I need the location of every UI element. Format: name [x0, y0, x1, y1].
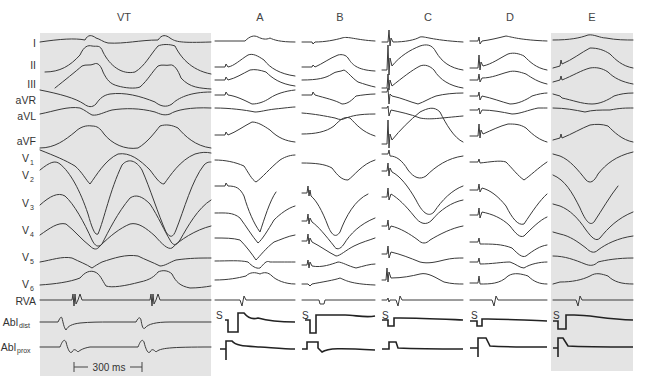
column-title-e: E: [588, 11, 595, 23]
lead-label-avr: aVR: [16, 94, 37, 106]
ecg-trace: [470, 108, 547, 114]
column-title-vt: VT: [117, 11, 131, 23]
ecg-trace: [215, 296, 295, 306]
lead-label-v4: V: [22, 224, 29, 236]
lead-label-v2-sub: 2: [30, 176, 34, 183]
ecg-trace: [470, 296, 547, 306]
c-stim-abl-prox: [382, 342, 463, 349]
a-traces: S: [215, 36, 295, 360]
ecg-trace: [382, 106, 463, 119]
ecg-trace: [215, 70, 295, 86]
lead-label-rva: RVA: [15, 295, 36, 307]
scale-bar-label: 300 ms: [93, 362, 126, 373]
a-stim-abl-prox: [220, 341, 295, 360]
ecg-trace: [382, 268, 463, 284]
column-title-c: C: [424, 11, 432, 23]
lead-label-v6: V: [22, 278, 29, 290]
lead-label-v2: V: [22, 169, 29, 181]
ecg-trace: [215, 107, 295, 112]
ecg-trace: [382, 30, 463, 46]
lead-label-v5-sub: 5: [30, 258, 34, 265]
ecg-trace: [215, 54, 295, 76]
ecg-trace: [215, 183, 276, 232]
ecg-trace: [470, 159, 547, 180]
e-panel-background: [551, 33, 633, 371]
lead-label-v4-sub: 4: [30, 231, 34, 238]
ecg-trace: [302, 260, 375, 268]
ecg-trace: [382, 296, 463, 306]
ecg-trace: [215, 36, 295, 42]
ecg-trace: [382, 45, 463, 75]
ecg-trace: [302, 214, 375, 249]
ecg-trace: [215, 90, 295, 104]
ecg-trace: [470, 258, 547, 268]
ecg-trace: [382, 246, 463, 263]
ecg-trace: [470, 238, 547, 257]
ecg-figure: VT A B C D E I II III aVR aVL aVF V 1 V …: [0, 0, 647, 385]
ecg-trace: [470, 71, 547, 84]
lead-label-abl-prox-sub: prox: [17, 347, 31, 355]
lead-label-v3: V: [22, 197, 29, 209]
lead-label-i: I: [33, 37, 36, 49]
column-title-b: B: [336, 11, 343, 23]
a-stim-abl-dist: [225, 313, 295, 332]
d-stim-abl-dist: [470, 319, 547, 326]
a-stim-marker: S: [216, 310, 223, 321]
lead-label-v1-sub: 1: [30, 159, 34, 166]
lead-labels: I II III aVR aVL aVF V 1 V 2 V 3 V 4 V 5…: [1, 37, 37, 355]
c-stim-abl-dist: [382, 318, 463, 326]
ecg-trace: [470, 53, 547, 70]
b-traces: S: [302, 37, 375, 352]
d-traces: S: [470, 36, 547, 357]
lead-label-v6-sub: 6: [30, 285, 34, 292]
lead-label-avl: aVL: [17, 110, 36, 122]
ecg-trace: [382, 108, 463, 148]
ecg-trace: [382, 65, 463, 90]
ecg-trace: [302, 55, 375, 71]
ecg-trace: [302, 234, 375, 256]
d-stim-marker: S: [471, 310, 478, 321]
d-stim-abl-prox: [470, 338, 547, 357]
ecg-trace: [382, 88, 463, 104]
a-trace-avf: [215, 122, 295, 142]
column-title-a: A: [256, 11, 264, 23]
b-stim-abl-prox: [302, 342, 375, 352]
ecg-trace: [302, 113, 375, 136]
ecg-trace: [382, 163, 463, 214]
b-stim-marker: S: [302, 310, 309, 321]
ecg-trace: [302, 300, 375, 304]
lead-label-v3-sub: 3: [30, 204, 34, 211]
ecg-trace: [215, 261, 295, 268]
ecg-trace: [470, 124, 547, 142]
lead-label-v5: V: [22, 251, 29, 263]
ecg-trace: [302, 37, 375, 44]
ecg-trace: [470, 92, 547, 104]
ecg-trace: [470, 208, 547, 237]
ecg-trace: [302, 70, 375, 87]
ecg-trace: [470, 36, 547, 44]
lead-label-v1: V: [22, 152, 29, 164]
ecg-trace: [215, 155, 295, 182]
c-traces: S: [382, 30, 463, 349]
b-stim-abl-dist: [305, 315, 375, 333]
column-title-d: D: [506, 11, 514, 23]
ecg-trace: [470, 274, 547, 284]
ecg-trace: [215, 273, 295, 284]
ecg-trace: [302, 92, 375, 104]
e-stim-marker: S: [553, 310, 560, 321]
ecg-trace: [302, 160, 375, 180]
lead-label-abl-dist-sub: dist: [19, 322, 30, 329]
lead-label-avf: aVF: [17, 135, 36, 147]
lead-label-iii: III: [27, 78, 36, 90]
c-stim-marker: S: [382, 310, 389, 321]
ecg-trace: [302, 278, 375, 286]
lead-label-abl-dist: Abl: [3, 316, 18, 328]
ecg-trace: [470, 184, 547, 224]
lead-label-abl-prox: Abl: [1, 341, 16, 353]
lead-label-ii: II: [30, 59, 36, 71]
